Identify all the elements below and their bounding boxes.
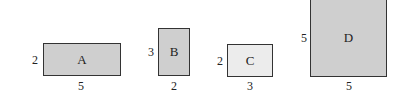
rectangle-b-width: 2	[171, 80, 177, 92]
rectangle-b-height: 3	[148, 46, 154, 58]
rectangle-a-width: 5	[78, 80, 84, 92]
rectangle-d-height: 5	[301, 32, 307, 44]
rectangle-b-label: B	[170, 44, 179, 60]
rectangle-d: D	[310, 0, 387, 77]
rectangle-c: C	[227, 44, 273, 77]
rectangle-c-label: C	[246, 53, 255, 69]
rectangle-a-height: 2	[32, 54, 38, 66]
rectangle-d-label: D	[344, 30, 353, 46]
rectangle-c-height: 2	[217, 55, 223, 67]
rectangle-b: B	[158, 28, 190, 76]
rectangle-c-width: 3	[247, 80, 253, 92]
rectangle-d-width: 5	[346, 80, 352, 92]
rectangle-a: A	[43, 43, 121, 76]
rectangle-a-label: A	[77, 52, 86, 68]
